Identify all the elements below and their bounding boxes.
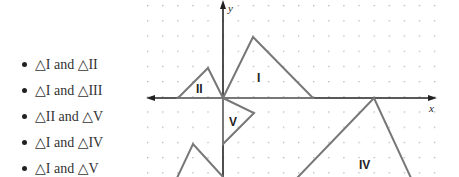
label-I: I	[257, 71, 260, 85]
x-axis-label: x	[428, 102, 434, 114]
label-IV: IV	[359, 158, 370, 172]
coordinate-graph: x y I II V IV	[0, 0, 459, 177]
label-II: II	[196, 82, 203, 96]
y-axis-label: y	[227, 2, 233, 14]
label-V: V	[229, 115, 237, 129]
